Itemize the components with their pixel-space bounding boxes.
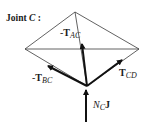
label-N-C-J: NCJ: [93, 100, 110, 112]
vector-neg-T-AC-arrow: [82, 44, 87, 86]
vector-neg-T-BC-arrow: [48, 66, 87, 86]
label-T-CD: TCD: [119, 68, 137, 80]
label-neg-T-BC: -TBC: [32, 73, 52, 85]
label-neg-T-AC: -TAC: [60, 28, 80, 40]
joint-title: Joint C :: [6, 14, 41, 24]
member-top-right: [75, 12, 139, 49]
vector-T-CD-arrow: [87, 60, 122, 86]
